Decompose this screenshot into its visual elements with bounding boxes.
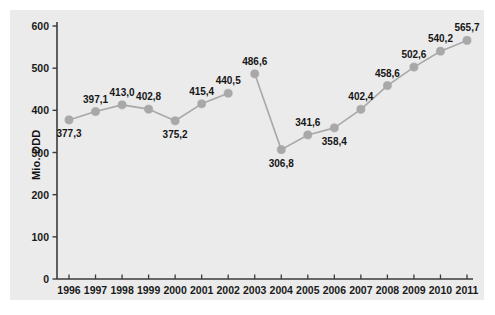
data-point-label: 440,5 <box>206 76 250 86</box>
data-point-label: 306,8 <box>259 159 303 169</box>
data-point-marker <box>65 116 73 124</box>
data-point-label: 377,3 <box>47 129 91 139</box>
data-point-marker <box>357 105 365 113</box>
data-point-label: 402,8 <box>127 92 171 102</box>
data-point-marker <box>145 105 153 113</box>
data-point-marker <box>171 117 179 125</box>
chart-figure: Mio. DDD 0100200300400500600 19961997199… <box>0 0 495 315</box>
data-point-label: 540,2 <box>418 34 462 44</box>
data-point-marker <box>277 146 285 154</box>
data-point-marker <box>224 89 232 97</box>
data-point-marker <box>304 131 312 139</box>
data-point-label: 486,6 <box>233 57 277 67</box>
data-point-marker <box>251 70 259 78</box>
data-point-marker <box>198 100 206 108</box>
data-point-marker <box>410 63 418 71</box>
data-point-marker <box>383 82 391 90</box>
data-point-label: 341,6 <box>286 118 330 128</box>
data-point-marker <box>91 107 99 115</box>
data-point-marker <box>330 124 338 132</box>
y-axis-tick-label: 300 <box>8 148 49 159</box>
y-axis-tick-label: 500 <box>8 63 49 74</box>
line-chart-plot <box>0 0 495 315</box>
data-point-marker <box>436 47 444 55</box>
data-point-marker <box>463 36 471 44</box>
data-point-label: 402,4 <box>339 92 383 102</box>
data-point-label: 502,6 <box>392 50 436 60</box>
data-point-label: 415,4 <box>180 87 224 97</box>
y-axis-tick-label: 600 <box>8 21 49 32</box>
y-axis-tick-label: 100 <box>8 232 49 243</box>
y-axis-tick-label: 400 <box>8 105 49 116</box>
data-point-marker <box>118 101 126 109</box>
data-point-label: 458,6 <box>365 69 409 79</box>
data-point-label: 375,2 <box>153 130 197 140</box>
x-axis-tick-label: 2011 <box>443 285 491 296</box>
data-point-label: 565,7 <box>445 23 489 33</box>
y-axis-tick-label: 200 <box>8 190 49 201</box>
data-point-label: 358,4 <box>312 137 356 147</box>
y-axis-tick-label: 0 <box>8 274 49 285</box>
